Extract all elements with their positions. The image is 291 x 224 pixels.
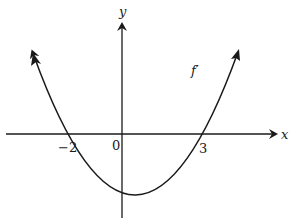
- function-label: f′: [190, 63, 199, 78]
- tick-label-origin: 0: [112, 138, 120, 153]
- graph-canvas: y x −2 0 3 f′: [0, 0, 291, 224]
- left-curve-arrow-icon: [31, 53, 41, 66]
- y-axis-label: y: [118, 4, 127, 19]
- x-axis-label: x: [281, 127, 289, 142]
- tick-label-3: 3: [199, 141, 207, 156]
- tick-label-neg2: −2: [58, 140, 77, 155]
- f-prime-curve: [34, 52, 238, 195]
